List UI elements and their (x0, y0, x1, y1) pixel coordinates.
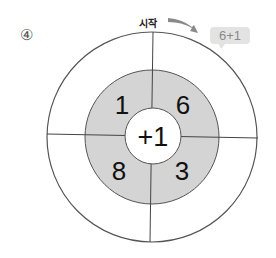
number-wheel-diagram: ④ 시작 +1 1 6 8 3 6+1 (0, 0, 276, 258)
segment-value: 3 (175, 156, 189, 186)
segment-value: 8 (112, 156, 126, 186)
curved-arrow-icon (168, 18, 198, 33)
segment-value: 1 (115, 90, 129, 120)
segment-value: 6 (176, 90, 190, 120)
speech-bubble: 6+1 (210, 27, 250, 44)
center-label: +1 (138, 122, 169, 152)
